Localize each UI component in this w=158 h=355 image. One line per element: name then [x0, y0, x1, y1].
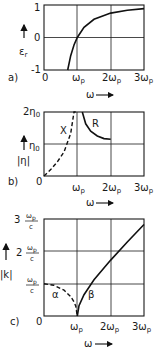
svg-text:ωp: ωp	[27, 276, 37, 286]
curve-label-r: R	[92, 118, 99, 129]
panel-a: 1 0 -1 εr a) 0 ωp 2ωp 3ωp ω	[8, 2, 154, 100]
y-tick-3wp-c: 3 ωp c	[14, 212, 38, 231]
x-axis-label: ω	[86, 197, 94, 208]
x-tick-wp: ωp	[72, 182, 85, 195]
x-tick-2wp: 2ωp	[102, 72, 122, 85]
svg-text:2: 2	[16, 247, 22, 258]
x-tick-0: 0	[36, 316, 42, 327]
x-tick-3wp: 3ωp	[132, 321, 152, 334]
x-tick-2wp: 2ωp	[102, 182, 122, 195]
x-tick-wp: ωp	[72, 72, 85, 85]
alpha-curve	[44, 284, 77, 316]
x-axis-label: ω	[84, 338, 92, 349]
y-tick-minus1: -1	[31, 64, 41, 75]
y-axis-label: εr	[19, 46, 27, 59]
panel-label: a)	[8, 72, 18, 83]
y-tick-0: 0	[34, 32, 40, 43]
y-tick-wp-c: ωp c	[26, 276, 39, 295]
x-tick-0: 0	[36, 176, 42, 187]
svg-text:c: c	[30, 287, 34, 295]
x-tick-3wp: 3ωp	[134, 72, 154, 85]
y-axis-label: |k|	[0, 269, 13, 281]
figure: 1 0 -1 εr a) 0 ωp 2ωp 3ωp ω X R 2η0 η0 |…	[0, 0, 158, 355]
panel-c: α β 3 ωp c 2 ωp c ωp c |k| c) 0 ωp 2ωp 3…	[0, 212, 152, 349]
svg-text:c: c	[29, 223, 33, 231]
svg-text:ωp: ωp	[26, 212, 36, 222]
svg-text:ωp: ωp	[27, 244, 37, 254]
x-tick-3wp: 3ωp	[134, 182, 154, 195]
svg-text:3: 3	[14, 214, 20, 225]
y-tick-1: 1	[34, 2, 40, 13]
y-tick-2wp-c: 2 ωp c	[16, 244, 39, 263]
panel-label: b)	[8, 176, 18, 187]
y-axis-label: |η|	[17, 155, 30, 167]
x-tick-0: 0	[42, 72, 48, 83]
curve-label-x: X	[60, 125, 67, 136]
x-tick-wp: ωp	[70, 321, 83, 334]
panel-label: c)	[10, 316, 19, 327]
x-tick-2wp: 2ωp	[100, 321, 120, 334]
epsilon-curve	[68, 9, 144, 70]
curve-label-alpha: α	[52, 289, 59, 300]
y-tick-eta0: η0	[29, 140, 40, 153]
y-tick-2eta0: 2η0	[23, 106, 40, 119]
panel-c-frame	[44, 219, 144, 316]
panel-b: X R 2η0 η0 |η| b) 0 ωp 2ωp 3ωp ω	[8, 106, 154, 208]
curve-label-beta: β	[88, 289, 94, 300]
svg-text:c: c	[30, 255, 34, 263]
x-axis-label: ω	[86, 89, 94, 100]
